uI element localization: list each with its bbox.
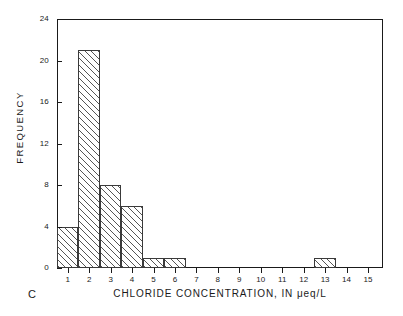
x-axis-title: CHLORIDE CONCENTRATION, IN μeq/L <box>57 288 383 299</box>
histogram-figure: 04812162024123456789101112131415 FREQUEN… <box>0 0 403 316</box>
y-axis-tick-label: 20 <box>3 56 49 65</box>
y-axis-tick <box>57 102 62 103</box>
x-axis-tick <box>282 268 283 273</box>
y-axis-tick <box>57 227 62 228</box>
x-axis-tick <box>68 268 69 273</box>
x-axis-tick-label: 14 <box>337 275 357 284</box>
y-axis-tick <box>57 144 62 145</box>
x-axis-tick <box>347 268 348 273</box>
y-axis-tick <box>57 185 62 186</box>
x-axis-tick <box>368 268 369 273</box>
x-axis-tick <box>89 268 90 273</box>
panel-label: C <box>28 288 36 300</box>
x-axis-tick-label: 15 <box>358 275 378 284</box>
x-axis-tick <box>239 268 240 273</box>
y-axis-tick-label: 4 <box>3 222 49 231</box>
x-axis-tick-label: 7 <box>186 275 206 284</box>
y-axis-tick <box>57 61 62 62</box>
y-axis-tick-label: 0 <box>3 263 49 272</box>
x-axis-tick-label: 1 <box>58 275 78 284</box>
x-axis-tick <box>218 268 219 273</box>
x-axis-tick-label: 11 <box>272 275 292 284</box>
x-axis-tick <box>175 268 176 273</box>
y-axis-tick-label: 24 <box>3 14 49 23</box>
x-axis-tick <box>111 268 112 273</box>
x-axis-tick-label: 5 <box>144 275 164 284</box>
x-axis-tick <box>304 268 305 273</box>
x-axis-tick-label: 13 <box>315 275 335 284</box>
y-axis-tick <box>57 19 62 20</box>
x-axis-tick-label: 4 <box>122 275 142 284</box>
x-axis-tick <box>261 268 262 273</box>
x-axis-tick-label: 2 <box>79 275 99 284</box>
y-axis-title: FREQUENCY <box>14 63 25 193</box>
x-axis-tick <box>132 268 133 273</box>
x-axis-tick-label: 12 <box>294 275 314 284</box>
x-axis-tick <box>196 268 197 273</box>
y-axis-tick-label: 12 <box>3 139 49 148</box>
plot-area-frame <box>57 19 383 268</box>
y-axis-tick-label: 8 <box>3 180 49 189</box>
x-axis-tick <box>154 268 155 273</box>
x-axis-tick-label: 8 <box>208 275 228 284</box>
y-axis-tick-label: 16 <box>3 97 49 106</box>
x-axis-tick-label: 3 <box>101 275 121 284</box>
x-axis-tick-label: 9 <box>229 275 249 284</box>
x-axis-tick-label: 6 <box>165 275 185 284</box>
x-axis-tick <box>325 268 326 273</box>
y-axis-tick <box>57 268 62 269</box>
x-axis-tick-label: 10 <box>251 275 271 284</box>
